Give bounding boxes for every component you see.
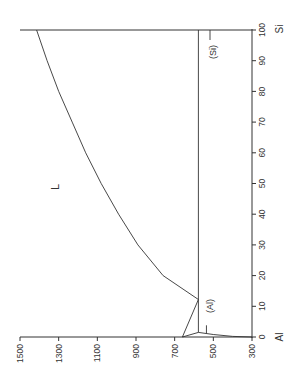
temp-tick-label: 1500 — [15, 344, 25, 363]
temp-tick-label: 300 — [247, 344, 257, 358]
comp-tick-label: 10 — [257, 301, 267, 311]
comp-tick-label: 80 — [257, 86, 267, 96]
axis-end-label-si: Si — [274, 25, 285, 34]
comp-tick-label: 90 — [257, 56, 267, 66]
axis-end-label-al: Al — [274, 333, 285, 342]
temp-tick-label: 700 — [170, 344, 180, 358]
tick-labels: 1500130011009007005003000102030405060708… — [15, 23, 267, 363]
comp-tick-label: 0 — [257, 334, 267, 339]
solidus-al-line — [182, 332, 198, 337]
comp-tick-label: 20 — [257, 271, 267, 281]
comp-tick-label: 40 — [257, 209, 267, 219]
temp-tick-label: 500 — [208, 344, 218, 358]
liquidus-si-side-line — [37, 30, 199, 300]
phase-label-si: (Si) — [208, 45, 218, 59]
comp-tick-label: 50 — [257, 179, 267, 189]
comp-tick-label: 60 — [257, 148, 267, 158]
liquidus-al-side-line — [182, 300, 198, 338]
phase-label-al: (Al) — [205, 299, 215, 313]
comp-tick-label: 70 — [257, 117, 267, 127]
temp-tick-label: 1100 — [92, 344, 102, 363]
temp-tick-label: 900 — [131, 344, 141, 358]
phase-diagram: 1500130011009007005003000102030405060708… — [0, 0, 306, 381]
temp-tick-label: 1300 — [54, 344, 64, 363]
phase-lines — [37, 30, 252, 337]
comp-tick-label: 100 — [257, 23, 267, 37]
comp-tick-label: 30 — [257, 240, 267, 250]
phase-label-liquid: L — [49, 184, 61, 190]
